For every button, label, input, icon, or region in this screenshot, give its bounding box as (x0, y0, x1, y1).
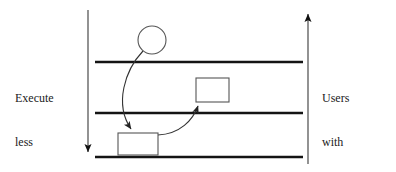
lower-file-rectangle-node (118, 133, 158, 155)
left-label-line-2: less (15, 135, 54, 150)
privilege-escalation-diagram: Execute less secure files Users with hig… (0, 0, 396, 172)
execute-less-secure-files-label: Execute less secure files (15, 62, 54, 172)
right-label-line-1: Users (322, 91, 365, 106)
upper-file-rectangle-node (196, 78, 229, 102)
curved-arrow-lower-rect-to-upper-rect (158, 106, 198, 135)
right-label-line-2: with (322, 135, 365, 150)
left-label-line-1: Execute (15, 91, 54, 106)
process-circle-node (138, 26, 166, 54)
users-with-higher-privilege-label: Users with higher privilege (322, 62, 365, 172)
